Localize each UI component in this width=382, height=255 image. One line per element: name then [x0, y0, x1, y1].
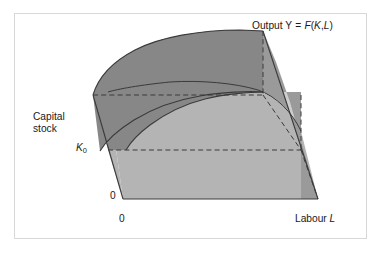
label-labour-word: Labour	[295, 213, 327, 224]
label-origin-axis: 0	[119, 213, 125, 225]
label-origin-solid: 0	[110, 190, 116, 202]
figure-root: Output Y = F(K,L) Capitalstock K0 0 0 La…	[0, 0, 382, 255]
label-output-paren-close: )	[329, 20, 332, 31]
label-output-arg-capital: K	[314, 20, 321, 31]
label-output-function: Output Y = F(K,L)	[252, 20, 333, 32]
label-labour-symbol: L	[330, 213, 336, 224]
label-capital-stock: Capitalstock	[33, 111, 65, 135]
label-labour-axis: Labour L	[295, 213, 335, 225]
label-k0-subscript: 0	[83, 146, 87, 155]
label-output-prefix: Output Y	[252, 20, 292, 31]
label-capital-line2: stock	[33, 123, 65, 135]
label-k0-symbol: K	[76, 142, 83, 153]
label-capital-line1: Capital	[33, 111, 65, 123]
label-k0: K0	[76, 142, 87, 154]
